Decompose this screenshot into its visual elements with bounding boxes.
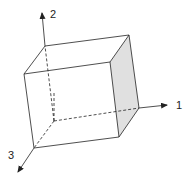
axis-3-hidden (34, 121, 54, 148)
axis-3-label: 3 (8, 150, 14, 161)
box-diagram (0, 0, 189, 181)
axis-2-label: 2 (50, 9, 56, 20)
shaded-face (110, 35, 139, 137)
axis-2-solid (42, 13, 45, 46)
axis-1 (139, 105, 167, 108)
axis-2-hidden (45, 46, 54, 121)
axis-1-label: 1 (176, 100, 182, 111)
axis-3 (18, 148, 34, 172)
